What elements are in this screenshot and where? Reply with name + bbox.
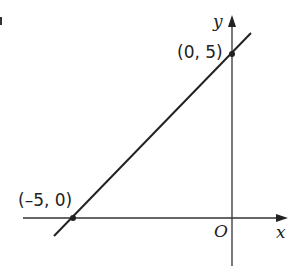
graph-svg bbox=[0, 0, 307, 271]
graph-figure: y x O (–5, 0) (0, 5) bbox=[0, 0, 307, 271]
point-a-label: (–5, 0) bbox=[18, 192, 72, 209]
point-b-marker bbox=[229, 51, 235, 57]
y-axis-arrow-icon bbox=[228, 15, 236, 27]
point-a-marker bbox=[70, 215, 76, 221]
point-b-label: (0, 5) bbox=[177, 44, 223, 61]
edge-fragment bbox=[0, 17, 2, 25]
y-axis-label: y bbox=[213, 13, 223, 30]
origin-label: O bbox=[214, 223, 228, 240]
graph-line bbox=[54, 33, 251, 236]
x-axis-arrow-icon bbox=[276, 214, 288, 222]
x-axis-label: x bbox=[276, 224, 286, 241]
